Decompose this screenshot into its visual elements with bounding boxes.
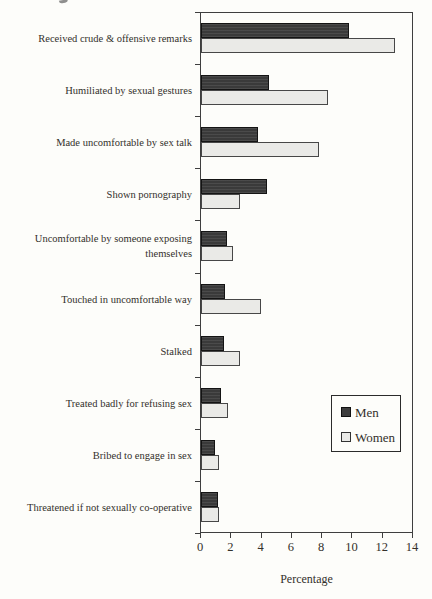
bar-men	[201, 284, 225, 299]
legend-item-men: Men	[341, 404, 400, 420]
legend-item-women: Women	[341, 429, 400, 445]
x-axis-tick	[351, 533, 352, 538]
y-axis-tick	[195, 12, 200, 13]
bar-men	[201, 231, 227, 246]
bar-women	[201, 507, 219, 522]
y-axis-tick	[195, 377, 200, 378]
x-tick-label: 2	[215, 540, 245, 554]
bar-men	[201, 23, 349, 38]
bar-women	[201, 403, 228, 418]
bar-men	[201, 492, 218, 507]
x-axis-tick	[291, 533, 292, 538]
category-label: Received crude & offensive remarks	[38, 31, 192, 46]
x-tick-label: 6	[276, 540, 306, 554]
bar-men	[201, 127, 258, 142]
bar-men	[201, 336, 224, 351]
x-tick-label: 8	[306, 540, 336, 554]
category-label: Uncomfortable by someone exposing themse…	[35, 231, 192, 261]
bar-men	[201, 388, 221, 403]
legend-swatch-women-icon	[341, 432, 351, 442]
y-axis-tick	[195, 220, 200, 221]
bar-men	[201, 75, 269, 90]
legend-label-men: Men	[355, 406, 379, 419]
x-axis-tick	[261, 533, 262, 538]
y-axis-tick	[195, 64, 200, 65]
bar-women	[201, 142, 319, 157]
bar-women	[201, 351, 240, 366]
category-label: Touched in uncomfortable way	[61, 291, 192, 306]
x-tick-label: 10	[336, 540, 366, 554]
x-axis-tick	[382, 533, 383, 538]
x-tick-label: 4	[246, 540, 276, 554]
category-label: Treated badly for refusing sex	[66, 395, 192, 410]
x-tick-label: 12	[367, 540, 397, 554]
category-label: Humiliated by sexual gestures	[65, 83, 192, 98]
x-axis-tick	[200, 533, 201, 538]
bar-women	[201, 455, 219, 470]
y-axis-tick	[195, 481, 200, 482]
x-axis-tick	[230, 533, 231, 538]
bar-women	[201, 246, 233, 261]
category-label: Threatened if not sexually co-operative	[27, 499, 192, 514]
bar-women	[201, 38, 395, 53]
y-axis-tick	[195, 116, 200, 117]
x-axis-title: Percentage	[200, 572, 413, 587]
x-axis-tick	[412, 533, 413, 538]
x-tick-label: 0	[185, 540, 215, 554]
category-label: Shown pornography	[107, 187, 192, 202]
y-axis-tick	[195, 325, 200, 326]
bar-women	[201, 90, 328, 105]
bar-men	[201, 179, 267, 194]
y-axis-tick	[195, 273, 200, 274]
bar-women	[201, 299, 261, 314]
bar-chart: Men Women Percentage Received crude & of…	[0, 0, 432, 599]
category-label: Bribed to engage in sex	[93, 447, 192, 462]
bar-men	[201, 440, 215, 455]
legend-label-women: Women	[355, 431, 395, 444]
legend-swatch-men-icon	[341, 407, 351, 417]
cropped-print-artifact	[59, 0, 68, 4]
y-axis-tick	[195, 168, 200, 169]
bar-women	[201, 194, 240, 209]
x-tick-label: 14	[397, 540, 427, 554]
category-label: Made uncomfortable by sex talk	[56, 135, 192, 150]
category-label: Stalked	[161, 343, 193, 358]
chart-legend: Men Women	[331, 395, 401, 452]
x-axis-tick	[321, 533, 322, 538]
y-axis-tick	[195, 429, 200, 430]
